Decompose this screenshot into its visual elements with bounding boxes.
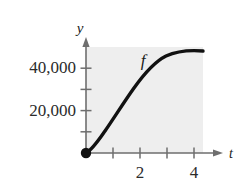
y-axis-arrowhead [82, 37, 89, 47]
x-tick-label-4: 4 [190, 163, 199, 182]
figure-container: y t 40,000 20,000 2 4 f [0, 0, 240, 194]
line-chart: y t 40,000 20,000 2 4 f [0, 0, 240, 194]
x-axis-arrowhead [213, 149, 223, 156]
y-tick-label-20000: 20,000 [29, 101, 76, 120]
y-tick-label-40000: 40,000 [29, 58, 76, 77]
curve-start-point [81, 148, 91, 158]
x-axis-label: t [229, 146, 234, 161]
x-tick-label-2: 2 [136, 163, 145, 182]
y-axis-label: y [75, 20, 84, 36]
